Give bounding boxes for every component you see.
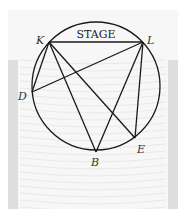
stage-label: STAGE: [76, 28, 115, 41]
stage-seating-diagram: STAGE KLDBE: [0, 0, 186, 209]
point-label-L: L: [146, 34, 154, 47]
point-label-K: K: [35, 34, 45, 47]
right-wall: [168, 60, 178, 209]
point-label-D: D: [17, 90, 27, 103]
point-label-E: E: [136, 143, 145, 156]
left-wall: [8, 60, 18, 209]
point-label-B: B: [90, 156, 99, 169]
